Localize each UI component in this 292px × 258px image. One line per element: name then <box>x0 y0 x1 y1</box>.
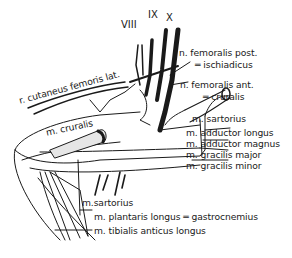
label-femoralis-post: n. femoralis post. <box>179 48 257 58</box>
nerve-root-ix-label: IX <box>148 10 158 20</box>
anatomy-diagram: VIII IX X r. cutaneus femoris lat. n. fe… <box>0 0 292 258</box>
label-sartorius-upper: m. sartorius <box>192 114 246 124</box>
nerve-root-viii <box>146 40 152 95</box>
label-sartorius-lower: m.sartorius <box>82 198 133 208</box>
label-cruralis-nerve: ═ cruralis <box>203 92 244 102</box>
label-gracilis-minor: m. gracilis minor <box>186 161 261 171</box>
label-adductor-longus: m. adductor longus <box>186 128 274 138</box>
label-adductor-magnus: m. adductor magnus <box>186 139 280 149</box>
label-ischiadicus: ═ ischiadicus <box>195 60 253 70</box>
label-femoralis-ant: n. femoralis ant. <box>180 80 254 90</box>
nerve-root-viii-label: VIII <box>121 20 137 30</box>
label-plantaris-longus: m. plantaris longus ═ gastrocnemius <box>94 212 258 222</box>
label-gracilis-major: m. gracilis major <box>186 150 261 160</box>
nerve-root-x-label: X <box>166 13 173 23</box>
nerve-root-ix <box>157 30 166 100</box>
label-tibialis-anticus-longus: m. tibialis anticus longus <box>94 226 206 236</box>
